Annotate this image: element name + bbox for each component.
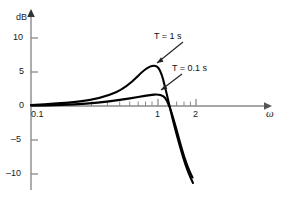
y-tick-label-10: 10 [13, 33, 23, 42]
y-axis-label: dB [16, 13, 27, 22]
bode-magnitude-figure: dB 10 5 0 –5 –10 0.1 1 2 ω T = 1 s T = 0… [0, 0, 282, 205]
y-tick-label-minus5: –5 [11, 135, 21, 144]
x-tick-label-2: 2 [193, 110, 198, 119]
annotation-arrow-t-1s [157, 42, 183, 63]
plot-canvas [0, 0, 282, 205]
x-axis-label-omega: ω [266, 108, 274, 119]
y-tick-label-minus10: –10 [6, 169, 21, 178]
curve-t-1s [31, 66, 193, 183]
y-tick-label-5: 5 [19, 67, 24, 76]
x-tick-label-1: 1 [155, 110, 160, 119]
y-axis-arrow-icon [27, 9, 35, 17]
y-tick-label-0: 0 [19, 101, 24, 110]
curve-t-01s [31, 94, 193, 177]
annotation-t-1s: T = 1 s [154, 32, 182, 41]
x-tick-label-0-1: 0.1 [31, 110, 44, 119]
annotation-t-01s: T = 0.1 s [172, 64, 207, 73]
